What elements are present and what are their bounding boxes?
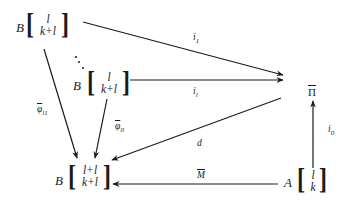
arrow-d bbox=[112, 98, 281, 160]
left-bracket: [ bbox=[26, 9, 34, 39]
node-matrix: l k+l bbox=[34, 13, 62, 37]
ellipsis-dot bbox=[75, 56, 77, 58]
node-matrix: l k+l bbox=[95, 71, 123, 95]
right-bracket: ] bbox=[61, 9, 69, 39]
right-bracket: ] bbox=[319, 164, 327, 194]
label-M: M bbox=[197, 170, 205, 180]
right-bracket: ] bbox=[122, 67, 130, 97]
node-pi: Π bbox=[308, 86, 316, 98]
label-i1: i1 bbox=[193, 32, 199, 46]
node-matrix: l+l k+l bbox=[76, 164, 104, 188]
left-bracket: [ bbox=[87, 67, 95, 97]
label-il: il bbox=[193, 86, 198, 100]
label-d: d bbox=[197, 138, 202, 148]
node-bottom-entry: k+l bbox=[82, 176, 98, 188]
node-matrix: l k bbox=[306, 169, 320, 193]
arrow-phi-l1 bbox=[44, 49, 77, 158]
node-prefix: B bbox=[16, 20, 24, 36]
label-phi-l1: φl1 bbox=[37, 104, 48, 118]
ellipsis-dot bbox=[78, 61, 80, 63]
arrow-phi-ll bbox=[95, 99, 107, 158]
node-prefix: B bbox=[73, 78, 81, 94]
node-prefix: B bbox=[55, 173, 63, 189]
ellipsis-dot bbox=[82, 67, 84, 69]
left-bracket: [ bbox=[68, 161, 76, 191]
node-top-entry: l bbox=[46, 13, 49, 25]
node-top-entry: l+l bbox=[83, 164, 97, 176]
node-bottom-entry: k+l bbox=[40, 25, 56, 37]
arrow-i1 bbox=[83, 22, 283, 75]
label-i0: i0 bbox=[328, 124, 334, 138]
node-bottom-entry: k bbox=[310, 181, 315, 193]
right-bracket: ] bbox=[103, 161, 111, 191]
left-bracket: [ bbox=[297, 164, 305, 194]
node-prefix: A bbox=[284, 175, 292, 191]
node-bottom-entry: k+l bbox=[101, 83, 117, 95]
label-phi-ll: φll bbox=[115, 121, 124, 135]
node-top-entry: l bbox=[107, 71, 110, 83]
node-top-entry: l bbox=[311, 169, 314, 181]
